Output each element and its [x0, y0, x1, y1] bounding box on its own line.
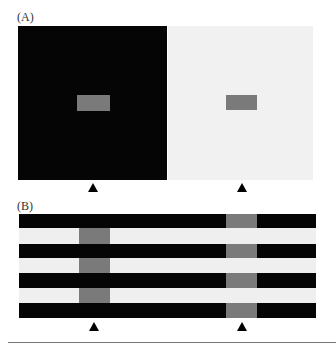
gray-bar-on-dark — [226, 244, 257, 258]
gray-bar-on-light — [79, 258, 110, 273]
triangle-marker-icon — [237, 322, 247, 331]
light-stripe — [19, 258, 316, 273]
dark-stripe — [19, 273, 316, 288]
gray-patch-on-light — [226, 95, 257, 110]
dark-stripe — [19, 244, 316, 258]
bottom-rule — [8, 342, 336, 343]
triangle-marker-icon — [88, 183, 98, 192]
panel-b-label: (B) — [17, 199, 33, 214]
light-stripe — [19, 288, 316, 303]
gray-bar-on-dark — [226, 273, 257, 288]
triangle-marker-icon — [89, 322, 99, 331]
gray-bar-on-light — [79, 228, 110, 244]
gray-patch-on-dark — [77, 95, 110, 111]
dark-stripe — [19, 303, 316, 318]
gray-bar-on-dark — [226, 214, 257, 228]
gray-bar-on-dark — [226, 303, 257, 318]
light-stripe — [19, 228, 316, 244]
triangle-marker-icon — [237, 183, 247, 192]
panel-a-label: (A) — [17, 10, 34, 25]
gray-bar-on-light — [79, 288, 110, 303]
dark-stripe — [19, 214, 316, 228]
